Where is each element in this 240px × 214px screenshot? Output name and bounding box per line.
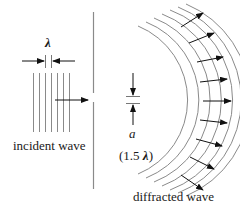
diagram-graphics [0,0,240,214]
aperture-size-label: (1.5 λ) [119,149,153,162]
aperture-size-prefix: (1.5 [119,148,143,163]
diffracted-wave-label: diffracted wave [133,190,214,203]
diffraction-diagram: λ incident wave a (1.5 λ) diffracted wav… [0,0,240,214]
wavelength-label: λ [45,36,51,49]
aperture-size-suffix: ) [149,148,153,163]
diffracted-wavefronts [138,4,240,196]
diffracted-direction-arrows [181,13,231,190]
aperture-size-indicator [126,73,140,125]
incident-wave-label: incident wave [13,139,86,152]
aperture-label: a [129,127,136,140]
incident-wavefronts [34,73,70,132]
wavelength-indicator [22,55,75,68]
